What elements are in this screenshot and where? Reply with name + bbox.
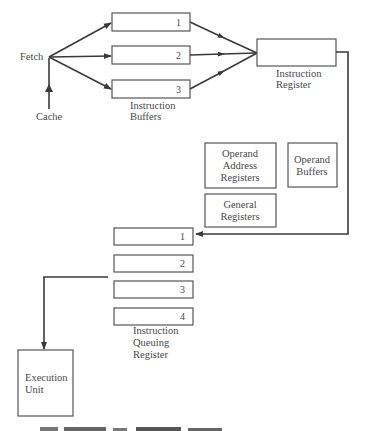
buffer-3-number: 3: [176, 84, 181, 95]
cache-arrow-icon: [45, 84, 53, 92]
instruction-register-label-line1: Instruction: [276, 68, 322, 79]
instruction-queue-label-line2: Queuing: [133, 337, 170, 348]
execution-unit-box: Execution Unit: [18, 350, 73, 416]
buffer-2-to-ir-arrow: [190, 53, 257, 55]
buffer-2-number: 2: [176, 50, 181, 61]
svg-text:Operand: Operand: [222, 148, 259, 159]
buffer-1-to-ir-arrow: [190, 22, 257, 53]
general-registers-box: General Registers: [205, 194, 276, 227]
instruction-buffers-label-line1: Instruction: [130, 100, 176, 111]
svg-text:2: 2: [180, 258, 185, 269]
svg-text:Registers: Registers: [220, 172, 259, 183]
operand-buffers-box: Operand Buffers: [288, 143, 337, 187]
pipeline-diagram: Fetch Cache 1 2 3 Instruction Buffers In…: [0, 0, 370, 431]
instruction-queue-1: 1: [114, 228, 193, 245]
buffer-3-to-ir-arrow: [190, 53, 257, 89]
instruction-queue-3: 3: [114, 281, 193, 298]
instruction-buffer-1: 1: [112, 13, 190, 31]
instruction-buffer-2: 2: [112, 46, 190, 64]
svg-text:Buffers: Buffers: [296, 166, 327, 177]
svg-text:General: General: [223, 199, 256, 210]
truncated-caption: [40, 427, 222, 431]
cache-label: Cache: [36, 111, 63, 122]
svg-text:Execution: Execution: [25, 372, 68, 383]
instruction-queue-label-line3: Register: [133, 349, 168, 360]
svg-text:Unit: Unit: [25, 384, 44, 395]
fetch-label: Fetch: [20, 51, 44, 62]
instruction-queue-2: 2: [114, 255, 193, 272]
instruction-buffer-3: 3: [112, 80, 190, 98]
svg-text:1: 1: [180, 231, 185, 242]
operand-address-registers-box: Operand Address Registers: [205, 143, 276, 188]
fetch-to-buffer-1-arrow: [49, 23, 111, 57]
svg-text:Operand: Operand: [294, 154, 331, 165]
fetch-to-buffer-2-arrow: [49, 56, 111, 57]
svg-text:4: 4: [180, 311, 185, 322]
buffer-1-number: 1: [176, 17, 181, 28]
instruction-buffers-label-line2: Buffers: [130, 111, 161, 122]
queue-to-execution-arrow: [44, 277, 108, 349]
svg-text:Address: Address: [223, 160, 257, 171]
instruction-register-label-line2: Register: [276, 79, 311, 90]
instruction-queue-4: 4: [114, 308, 193, 325]
instruction-queue-label-line1: Instruction: [133, 325, 179, 336]
instruction-register-box: [257, 39, 336, 66]
svg-text:3: 3: [180, 284, 185, 295]
svg-text:Registers: Registers: [220, 211, 259, 222]
fetch-to-buffer-3-arrow: [49, 57, 111, 89]
